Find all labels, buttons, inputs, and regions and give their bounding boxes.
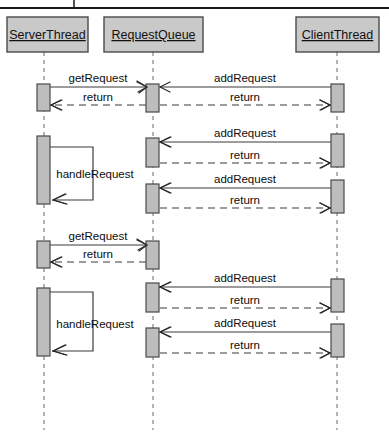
message-label-addrequest-15: addRequest: [214, 317, 277, 329]
activation-queue-1[interactable]: [146, 84, 159, 112]
sequence-diagram-svg: ServerThread RequestQueue ClientThread g…: [0, 0, 389, 438]
activation-bars: [37, 84, 344, 357]
activation-server-1[interactable]: [37, 84, 50, 111]
diagram-frame: [0, 0, 389, 8]
sequence-diagram-canvas: ServerThread RequestQueue ClientThread g…: [0, 0, 389, 438]
activation-queue-2[interactable]: [146, 138, 159, 167]
message-return-16: return: [160, 339, 330, 358]
message-label-return-3: return: [83, 91, 113, 103]
message-label-addrequest-8: addRequest: [214, 173, 277, 185]
message-label-addrequest-12: addRequest: [214, 272, 277, 284]
message-label-getrequest-1: getRequest: [69, 72, 129, 84]
message-label-return-9: return: [230, 194, 260, 206]
message-return-9: return: [160, 194, 330, 213]
participant-label-server: ServerThread: [9, 28, 85, 42]
message-addrequest-12: addRequest: [160, 272, 331, 292]
activation-client-4[interactable]: [331, 279, 344, 312]
message-label-handlerequest-14: handleRequest: [56, 318, 134, 330]
message-return-13: return: [160, 294, 330, 313]
message-label-getrequest-10: getRequest: [69, 230, 129, 242]
message-return-6: return: [160, 149, 330, 168]
activation-client-1[interactable]: [331, 84, 344, 112]
participant-label-client: ClientThread: [302, 28, 374, 42]
message-label-addrequest-5: addRequest: [214, 127, 277, 139]
activation-server-4[interactable]: [37, 288, 50, 356]
activation-client-5[interactable]: [331, 324, 344, 357]
message-label-addrequest-2: addRequest: [214, 72, 277, 84]
activation-queue-5[interactable]: [146, 283, 159, 312]
activation-client-2[interactable]: [331, 134, 344, 167]
message-addrequest-2: addRequest: [160, 72, 331, 92]
activation-queue-3[interactable]: [146, 184, 159, 213]
message-addrequest-15: addRequest: [160, 317, 331, 337]
participant-label-queue: RequestQueue: [111, 28, 195, 42]
activation-queue-6[interactable]: [146, 328, 159, 357]
message-return-11: return: [51, 248, 146, 267]
activation-queue-4[interactable]: [146, 241, 159, 269]
message-return-4: return: [160, 91, 330, 110]
message-label-return-4: return: [230, 91, 260, 103]
activation-server-3[interactable]: [37, 241, 50, 268]
activation-server-2[interactable]: [37, 136, 50, 204]
message-label-return-6: return: [230, 149, 260, 161]
message-return-3: return: [51, 91, 146, 110]
message-addrequest-5: addRequest: [160, 127, 331, 147]
message-label-return-13: return: [230, 294, 260, 306]
message-handlerequest-14: handleRequest: [50, 292, 134, 355]
message-getrequest-10: getRequest: [50, 230, 147, 250]
participant-headers: ServerThread RequestQueue ClientThread: [7, 17, 379, 52]
message-label-return-16: return: [230, 339, 260, 351]
activation-client-3[interactable]: [331, 180, 344, 213]
message-label-handlerequest-7: handleRequest: [56, 168, 134, 180]
message-getrequest-1: getRequest: [50, 72, 147, 92]
message-label-return-11: return: [83, 248, 113, 260]
message-addrequest-8: addRequest: [160, 173, 331, 193]
